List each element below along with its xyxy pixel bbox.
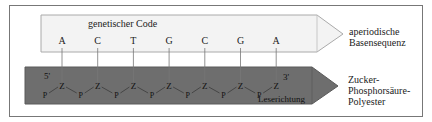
base-letter: A bbox=[58, 35, 66, 46]
phosphate-label: P bbox=[78, 91, 83, 100]
phosphate-label: P bbox=[221, 91, 226, 100]
side-label-line: Polyester bbox=[348, 96, 410, 107]
sugar-label: Z bbox=[95, 81, 101, 91]
base-sequence-arrow bbox=[41, 15, 343, 52]
phosphate-label: P bbox=[114, 91, 119, 100]
base-letter: C bbox=[94, 35, 101, 46]
side-label-line: Zucker- bbox=[348, 74, 410, 85]
base-letter: G bbox=[165, 35, 172, 46]
sugar-label: Z bbox=[59, 81, 65, 91]
phosphate-label: P bbox=[186, 91, 191, 100]
five-prime-label: 5' bbox=[44, 71, 51, 81]
sugar-label: Z bbox=[166, 81, 172, 91]
side-label-line: Phosphorsäure- bbox=[348, 85, 410, 96]
sugar-label: Z bbox=[202, 81, 208, 91]
sugar-label: Z bbox=[273, 81, 279, 91]
genetic-code-title: genetischer Code bbox=[88, 18, 158, 29]
side-label-line: aperiodische bbox=[349, 26, 406, 37]
base-sequence-side-label: aperiodische Basensequenz bbox=[349, 26, 406, 48]
side-label-line: Basensequenz bbox=[349, 37, 406, 48]
base-letter: G bbox=[237, 35, 244, 46]
sugar-label: Z bbox=[131, 81, 137, 91]
reading-direction-label: Leserichtung bbox=[258, 94, 305, 104]
phosphate-label: P bbox=[150, 91, 155, 100]
phosphate-label: P bbox=[43, 91, 48, 100]
three-prime-label: 3' bbox=[283, 72, 290, 82]
base-letter: A bbox=[273, 35, 281, 46]
backbone-side-label: Zucker- Phosphorsäure- Polyester bbox=[348, 74, 410, 107]
sugar-label: Z bbox=[238, 81, 244, 91]
base-letter: C bbox=[201, 35, 208, 46]
base-letter: T bbox=[130, 35, 136, 46]
